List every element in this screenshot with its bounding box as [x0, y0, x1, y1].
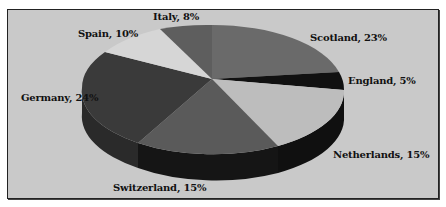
label-netherlands: Netherlands, 15%	[333, 149, 429, 160]
label-england: England, 5%	[348, 75, 416, 86]
label-germany: Germany, 24%	[21, 92, 98, 103]
label-spain: Spain, 10%	[78, 28, 138, 39]
label-switzerland: Switzerland, 15%	[113, 182, 206, 193]
label-scotland: Scotland, 23%	[310, 32, 387, 43]
label-italy: Italy, 8%	[153, 11, 199, 22]
pie-top	[82, 25, 344, 154]
